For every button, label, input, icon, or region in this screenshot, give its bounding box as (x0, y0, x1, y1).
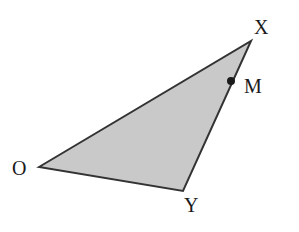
triangle-oxy (39, 41, 251, 191)
point-m-marker (227, 77, 235, 85)
vertex-label-o: O (12, 157, 26, 179)
point-label-m: M (244, 75, 262, 97)
vertex-label-y: Y (184, 194, 198, 216)
triangle-diagram: X M O Y (0, 0, 299, 232)
vertex-label-x: X (254, 16, 269, 38)
